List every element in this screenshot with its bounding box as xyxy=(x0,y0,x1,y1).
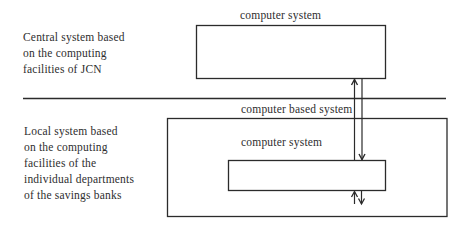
description-line: Local system based xyxy=(24,123,134,139)
down-arrow-icon xyxy=(359,79,365,161)
central-system-description: Central system based on the computing fa… xyxy=(23,29,125,77)
description-line: of the savings banks xyxy=(24,187,134,203)
diagram-canvas: Central system based on the computing fa… xyxy=(0,0,471,228)
small-down-arrow-icon xyxy=(359,191,365,204)
computer-based-system-label: computer based system xyxy=(241,102,353,116)
up-arrow-icon xyxy=(352,79,358,160)
description-line: facilities of JCN xyxy=(23,61,125,77)
description-line: on the computing xyxy=(24,139,134,155)
description-line: on the computing xyxy=(23,45,125,61)
description-line: Central system based xyxy=(23,29,125,45)
central-computer-system-label: computer system xyxy=(240,8,321,22)
central-computer-system-box xyxy=(197,26,386,79)
small-up-arrow-icon xyxy=(352,192,358,205)
description-line: facilities of the xyxy=(24,155,134,171)
description-line: individual departments xyxy=(24,171,134,187)
computer-based-system-box xyxy=(168,119,448,217)
local-computer-system-box xyxy=(229,161,386,191)
local-computer-system-label: computer system xyxy=(241,135,322,149)
local-system-description: Local system based on the computing faci… xyxy=(24,123,134,203)
